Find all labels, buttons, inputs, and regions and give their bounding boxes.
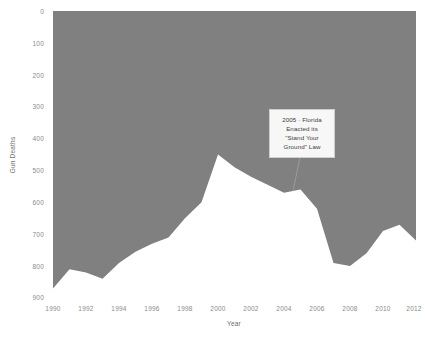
y-tick-label: 800 — [33, 263, 44, 270]
y-tick-label: 500 — [33, 167, 44, 174]
x-axis-title: Year — [227, 320, 241, 327]
y-tick-label: 100 — [33, 40, 44, 47]
annotation-line: Ground" Law — [273, 142, 331, 151]
y-tick-label: 700 — [33, 231, 44, 238]
x-tick-label: 1994 — [111, 305, 126, 312]
stand-your-ground-annotation: 2005 · Florida Enacted its "Stand Your G… — [269, 109, 335, 158]
y-tick-label: 400 — [33, 135, 44, 142]
x-tick-label: 2012 — [406, 305, 421, 312]
x-tick-label: 2010 — [375, 305, 390, 312]
y-tick-label: 300 — [33, 103, 44, 110]
y-tick-label: 600 — [33, 199, 44, 206]
x-tick-label: 1996 — [144, 305, 159, 312]
annotation-line: 2005 · Florida — [273, 115, 331, 124]
x-tick-label: 2002 — [243, 305, 258, 312]
x-tick-label: 2008 — [342, 305, 357, 312]
y-axis-title: Gun Deaths — [9, 115, 16, 195]
x-axis: 1990 1992 1994 1996 1998 2000 2002 2004 … — [0, 298, 425, 340]
y-axis: 0 100 200 300 400 500 600 700 800 900 Gu… — [0, 0, 53, 340]
y-tick-label: 200 — [33, 72, 44, 79]
annotation-line: "Stand Your — [273, 133, 331, 142]
area-fill-path — [53, 11, 416, 288]
gun-deaths-area-chart: 0 100 200 300 400 500 600 700 800 900 Gu… — [0, 0, 425, 340]
x-tick-label: 1998 — [177, 305, 192, 312]
x-tick-label: 1990 — [45, 305, 60, 312]
x-tick-label: 2006 — [309, 305, 324, 312]
annotation-pointer-line — [291, 157, 305, 191]
annotation-line: Enacted its — [273, 124, 331, 133]
y-tick-label: 0 — [40, 8, 44, 15]
x-tick-label: 2000 — [210, 305, 225, 312]
x-tick-label: 2004 — [276, 305, 291, 312]
plot-area — [53, 11, 416, 298]
x-tick-label: 1992 — [78, 305, 93, 312]
area-series-gun-deaths — [53, 11, 416, 298]
